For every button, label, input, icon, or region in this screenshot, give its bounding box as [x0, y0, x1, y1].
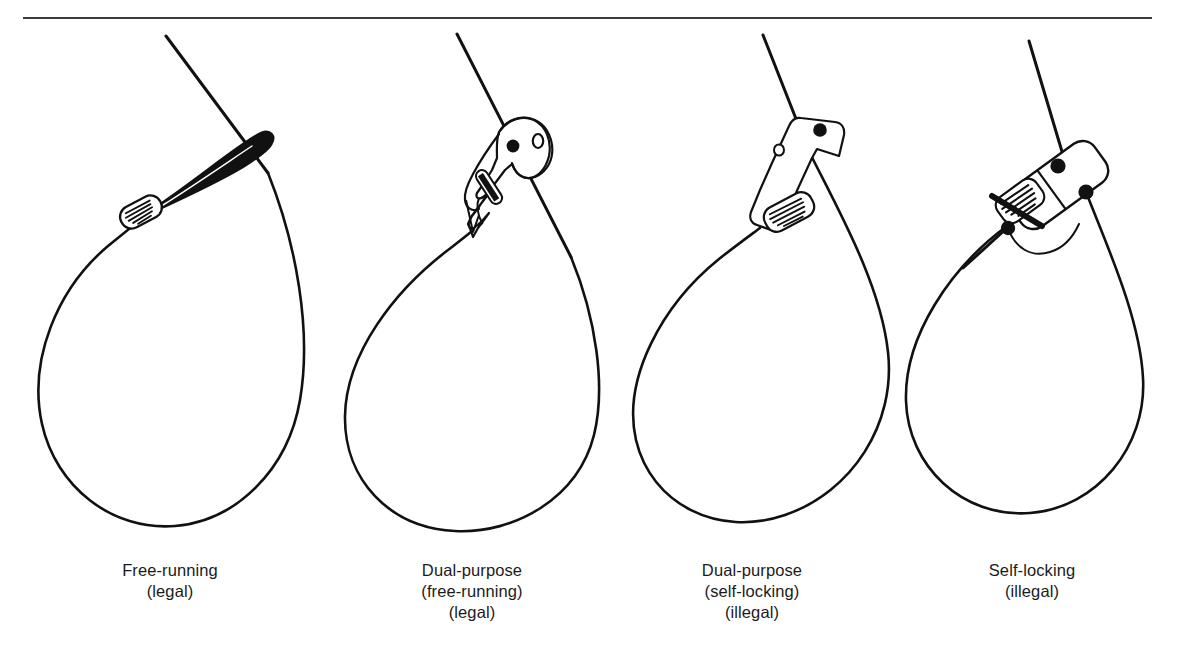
caption-line-2: (illegal) — [902, 581, 1162, 602]
panel-free-running — [38, 36, 304, 526]
rivet-dot — [813, 123, 827, 137]
eyelet-hole — [774, 144, 784, 155]
panel-dual-purpose-self-locking — [633, 35, 889, 522]
caption-line-1: Dual-purpose — [622, 560, 882, 581]
tail-wire — [1029, 41, 1063, 155]
panel-dual-purpose-free-running — [345, 34, 599, 531]
running-eye-inner-highlight — [163, 146, 252, 205]
rivet-dot — [1078, 184, 1093, 199]
caption-line-3: (illegal) — [622, 602, 882, 623]
rivet-dot — [507, 140, 520, 153]
rivet-dot — [1050, 158, 1065, 173]
panel-self-locking — [906, 41, 1143, 513]
caption-line-2: (self-locking) — [622, 581, 882, 602]
caption-line-1: Free-running — [40, 560, 300, 581]
caption-line-1: Self-locking — [902, 560, 1162, 581]
caption-dual-purpose-self-locking: Dual-purpose (self-locking) (illegal) — [622, 560, 882, 623]
caption-free-running: Free-running (legal) — [40, 560, 300, 602]
snare-wire-loop-right — [906, 192, 1143, 513]
wire-tail-lower-left — [963, 228, 1007, 268]
caption-line-2: (legal) — [40, 581, 300, 602]
caption-line-2: (free-running) — [342, 581, 602, 602]
crimp-ferrule — [116, 192, 166, 233]
snare-wire-loop — [38, 173, 304, 526]
caption-dual-purpose-free-running: Dual-purpose (free-running) (legal) — [342, 560, 602, 623]
caption-line-1: Dual-purpose — [342, 560, 602, 581]
tail-wire — [763, 35, 800, 129]
snare-types-figure: Free-running (legal) Dual-purpose (free-… — [0, 0, 1182, 664]
eyelet-hole — [533, 134, 543, 148]
rivet-dot — [1001, 221, 1015, 235]
snare-wire-loop — [345, 223, 599, 531]
caption-line-3: (legal) — [342, 602, 602, 623]
running-eye — [148, 132, 273, 213]
caption-self-locking: Self-locking (illegal) — [902, 560, 1162, 602]
